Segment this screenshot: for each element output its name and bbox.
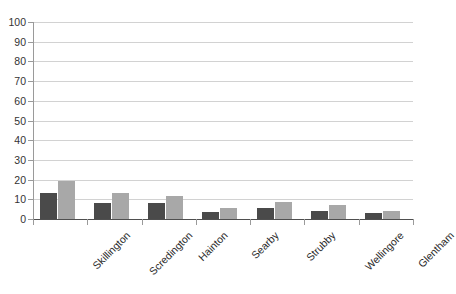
y-axis-tick-label: 70	[0, 76, 26, 87]
bar	[220, 208, 237, 219]
y-axis-tick-label: 0	[0, 214, 26, 225]
bar-group	[359, 22, 413, 219]
x-axis-tick	[33, 219, 34, 225]
bar-group	[87, 22, 141, 219]
y-axis-tick-label: 20	[0, 175, 26, 186]
bar-group	[142, 22, 196, 219]
x-axis-tick	[87, 219, 88, 225]
bar	[365, 213, 382, 219]
x-axis-category-label: Glentham	[415, 229, 456, 270]
x-axis-category-label: Strubby	[304, 229, 338, 263]
x-axis-tick	[142, 219, 143, 225]
y-axis-tick-label: 100	[0, 17, 26, 28]
x-axis-tick	[196, 219, 197, 225]
bar	[257, 208, 274, 219]
x-axis-category-label: Wellingore	[362, 229, 405, 272]
bar-group	[250, 22, 304, 219]
y-axis-tick-label: 30	[0, 155, 26, 166]
x-axis-category-label: Searby	[249, 229, 281, 261]
y-axis-tick-label: 80	[0, 56, 26, 67]
x-axis-tick	[304, 219, 305, 225]
bar	[148, 203, 165, 219]
axis-baseline	[33, 219, 413, 220]
bar	[40, 193, 57, 219]
y-axis-tick-label: 90	[0, 37, 26, 48]
bar	[329, 205, 346, 219]
bar	[112, 193, 129, 219]
x-axis-tick	[250, 219, 251, 225]
x-axis-tick	[359, 219, 360, 225]
bar-group	[33, 22, 87, 219]
bar	[383, 211, 400, 219]
y-axis-tick-label: 10	[0, 194, 26, 205]
y-axis-tick-label: 50	[0, 116, 26, 127]
x-axis-category-label: Skillington	[90, 229, 132, 271]
bar	[58, 181, 75, 219]
bar	[311, 211, 328, 219]
bar	[275, 202, 292, 219]
x-axis-category-label: Hainton	[195, 229, 229, 263]
bar	[202, 212, 219, 219]
x-axis-tick	[413, 219, 414, 225]
plot-area	[33, 22, 413, 219]
y-axis-tick-label: 40	[0, 135, 26, 146]
bar	[94, 203, 111, 219]
bar-group	[304, 22, 358, 219]
y-axis-line	[33, 22, 34, 220]
bar	[166, 196, 183, 219]
x-axis-category-label: Scredington	[147, 229, 195, 277]
bar-group	[196, 22, 250, 219]
y-axis-tick-label: 60	[0, 96, 26, 107]
